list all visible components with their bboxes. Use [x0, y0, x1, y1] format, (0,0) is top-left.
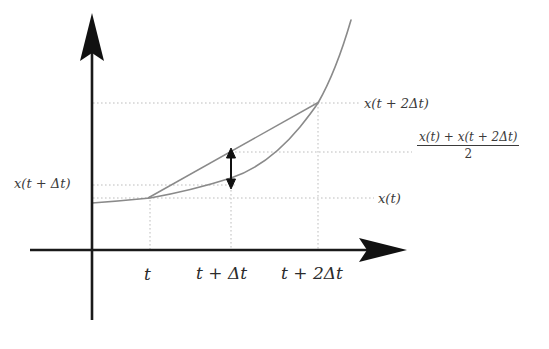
function-curve	[92, 20, 351, 203]
value-label-x-t-plus-2dt: x(t + 2Δt)	[364, 97, 429, 110]
midpoint-gap-arrow-icon	[227, 148, 236, 189]
value-label-x-t-plus-dt: x(t + Δt)	[14, 177, 70, 190]
x-axis-tick-label-t: t	[144, 266, 151, 283]
x-axis-tick-label-t-plus-2dt: t + 2Δt	[281, 265, 343, 282]
x-axis-tick-label-t-plus-dt: t + Δt	[196, 265, 247, 282]
figure-canvas	[0, 0, 549, 349]
midpoint-fraction-numerator: x(t) + x(t + 2Δt)	[417, 131, 519, 146]
value-label-midpoint-average: x(t) + x(t + 2Δt) 2	[417, 131, 519, 160]
value-label-x-t: x(t)	[378, 192, 401, 205]
horizontal-gridlines	[93, 103, 412, 198]
midpoint-fraction-denominator: 2	[417, 146, 519, 160]
math-figure: x(t + 2Δt) x(t) x(t + Δt) x(t) + x(t + 2…	[0, 0, 549, 349]
